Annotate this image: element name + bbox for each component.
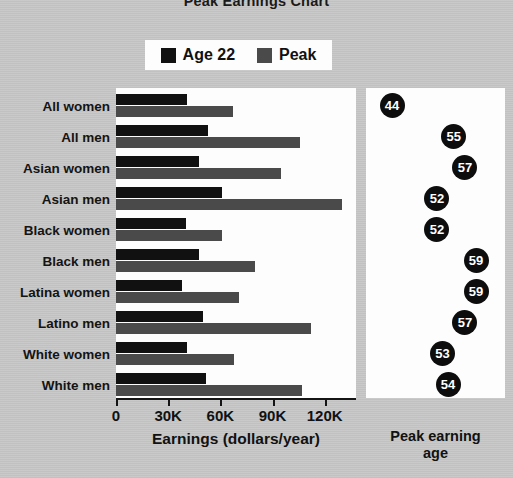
x-axis-tick-label: 90K [259, 407, 287, 424]
x-axis-title: Earnings (dollars/year) [60, 430, 412, 448]
peak-age-panel: 44555752525959575354 [366, 88, 505, 398]
chart-legend: Age 22 Peak [145, 40, 332, 70]
bar-age22 [116, 125, 208, 136]
bar-peak [116, 199, 342, 210]
category-axis-labels: All womenAll menAsian womenAsian menBlac… [0, 88, 110, 398]
bar-age22 [116, 94, 187, 105]
x-axis-tick [273, 398, 275, 406]
bar-age22 [116, 373, 206, 384]
x-axis-tick-label: 0 [112, 407, 120, 424]
bar-peak [116, 230, 222, 241]
legend-item-peak: Peak [257, 47, 316, 63]
x-axis-tick [325, 398, 327, 406]
x-axis-tick-label: 60K [207, 407, 235, 424]
bar-peak [116, 385, 302, 396]
x-axis-tick [116, 398, 118, 406]
category-label: Asian men [0, 192, 110, 207]
peak-panel-title-line2: age [366, 445, 505, 462]
category-label: All men [0, 130, 110, 145]
bar-peak [116, 354, 234, 365]
x-axis-tick-label: 120K [307, 407, 343, 424]
bar-age22 [116, 187, 222, 198]
category-label: White women [0, 347, 110, 362]
bar-age22 [116, 156, 199, 167]
bar-age22 [116, 342, 187, 353]
category-label: White men [0, 378, 110, 393]
bar-peak [116, 261, 255, 272]
bar-peak [116, 137, 300, 148]
bar-peak [116, 292, 239, 303]
bar-age22 [116, 218, 186, 229]
category-label: Black men [0, 254, 110, 269]
page-title: Peak Earnings Chart [0, 0, 513, 9]
category-label: Latino men [0, 316, 110, 331]
category-label: Black women [0, 223, 110, 238]
category-label: All women [0, 99, 110, 114]
category-label: Asian women [0, 161, 110, 176]
x-axis-tick [168, 398, 170, 406]
peak-age-dot: 52 [424, 217, 449, 242]
bar-age22 [116, 311, 203, 322]
bar-age22 [116, 280, 182, 291]
bar-peak [116, 168, 281, 179]
earnings-plot-panel [116, 88, 356, 398]
bar-age22 [116, 249, 199, 260]
x-axis-line [116, 398, 356, 400]
legend-item-age22: Age 22 [161, 47, 235, 63]
legend-swatch-icon [257, 48, 272, 63]
legend-swatch-icon [161, 48, 176, 63]
peak-panel-title-line1: Peak earning [366, 428, 505, 445]
peak-age-dot: 57 [452, 155, 477, 180]
peak-age-dot: 54 [436, 372, 461, 397]
peak-age-dot: 59 [464, 279, 489, 304]
legend-label: Age 22 [183, 47, 235, 63]
peak-age-dot: 52 [424, 186, 449, 211]
bar-peak [116, 106, 233, 117]
legend-label: Peak [279, 47, 316, 63]
chart-page: Peak Earnings Chart Age 22 Peak All wome… [0, 0, 513, 478]
peak-age-dot: 55 [441, 124, 466, 149]
x-axis-tick [220, 398, 222, 406]
category-label: Latina women [0, 285, 110, 300]
x-axis-tick-label: 30K [154, 407, 182, 424]
bar-rows [116, 88, 356, 398]
peak-age-dot: 57 [452, 310, 477, 335]
peak-panel-title: Peak earning age [366, 428, 505, 461]
peak-age-dot: 59 [464, 248, 489, 273]
peak-age-dot: 53 [430, 341, 455, 366]
peak-age-dot: 44 [380, 93, 405, 118]
bar-peak [116, 323, 311, 334]
